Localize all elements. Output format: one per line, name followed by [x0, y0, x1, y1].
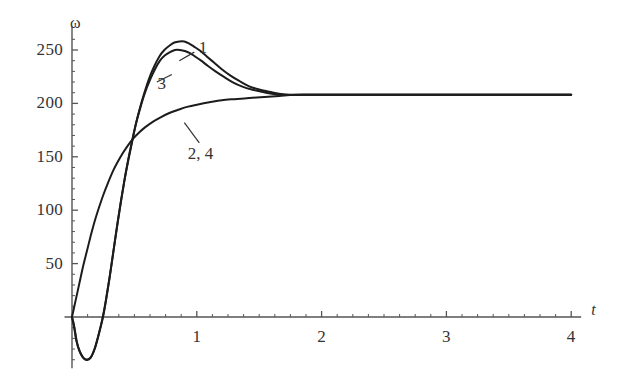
- data-curve-2-4: [72, 95, 571, 317]
- y-tick-label-50: 50: [45, 254, 63, 274]
- leader-line-layer: [157, 52, 199, 143]
- x-tick-label-2: 2: [317, 327, 326, 347]
- curve-label-3: 3: [158, 74, 167, 94]
- leader-1: [179, 52, 194, 61]
- y-tick-label-200: 200: [37, 93, 63, 113]
- axis-layer: [65, 27, 582, 369]
- x-tick-label-3: 3: [442, 327, 451, 347]
- x-axis-name: t: [591, 301, 595, 319]
- y-axis-name: ω: [70, 14, 81, 32]
- y-tick-label-100: 100: [37, 200, 63, 220]
- chart-figure: 25020015010050 1234 ω t 132, 4: [0, 0, 639, 379]
- x-tick-label-4: 4: [567, 327, 576, 347]
- y-tick-label-250: 250: [37, 40, 63, 60]
- leader-2-4: [184, 123, 199, 143]
- x-tick-label-1: 1: [192, 327, 201, 347]
- curve-label-2-4: 2, 4: [188, 144, 214, 164]
- curve-label-1: 1: [199, 38, 208, 58]
- plot-canvas: [0, 0, 639, 379]
- y-tick-label-150: 150: [37, 147, 63, 167]
